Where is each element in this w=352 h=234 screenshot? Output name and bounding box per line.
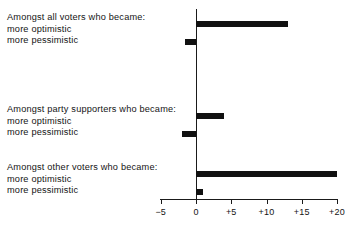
x-tick-2 <box>231 199 232 204</box>
x-tick-label-1: 0 <box>193 207 198 217</box>
x-tick-0 <box>161 199 162 204</box>
x-axis-line <box>160 199 338 200</box>
diverging-bar-chart: Amongst all voters who became: more opti… <box>0 0 352 234</box>
bar-group-2-series-1 <box>196 189 203 195</box>
bar-group-1-series-1 <box>182 131 196 137</box>
x-tick-label-2: +5 <box>226 207 237 217</box>
bar-group-0-series-0 <box>196 21 288 27</box>
x-tick-4 <box>302 199 303 204</box>
x-tick-5 <box>337 199 338 204</box>
bar-group-0-series-1 <box>185 39 196 45</box>
plot-area: −50+5+10+15+20 <box>0 0 352 234</box>
x-tick-3 <box>267 199 268 204</box>
x-tick-label-0: −5 <box>155 207 166 217</box>
bar-group-1-series-0 <box>196 113 224 119</box>
x-tick-label-4: +15 <box>294 207 310 217</box>
bar-group-2-series-0 <box>196 171 337 177</box>
x-tick-label-5: +20 <box>329 207 345 217</box>
x-tick-1 <box>196 199 197 204</box>
x-tick-label-3: +10 <box>259 207 275 217</box>
